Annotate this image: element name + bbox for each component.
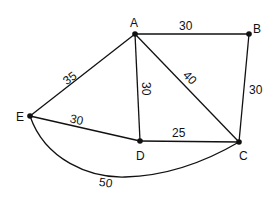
node-b (246, 31, 252, 37)
weight-b-c: 30 (249, 83, 263, 97)
node-label-c: C (239, 149, 248, 163)
node-label-d: D (136, 149, 145, 163)
weight-e-c: 50 (98, 175, 113, 191)
node-label-a: A (130, 16, 138, 30)
edge-e-c (30, 116, 239, 177)
node-label-b: B (253, 22, 261, 36)
weight-e-d: 30 (69, 111, 85, 128)
node-e (27, 113, 33, 119)
edge-b-c (239, 34, 249, 142)
weight-a-d: 30 (139, 82, 153, 96)
weight-a-e: 35 (60, 68, 79, 87)
node-a (132, 31, 138, 37)
node-label-e: E (16, 110, 24, 124)
edge-d-c (140, 141, 239, 142)
graph-diagram: A B C D E 30 35 30 40 30 30 25 50 (0, 0, 274, 201)
node-c (236, 139, 242, 145)
edge-e-d (30, 116, 140, 141)
node-d (137, 138, 143, 144)
edge-a-e (30, 34, 135, 116)
weight-d-c: 25 (172, 126, 186, 140)
weight-a-b: 30 (179, 19, 193, 33)
